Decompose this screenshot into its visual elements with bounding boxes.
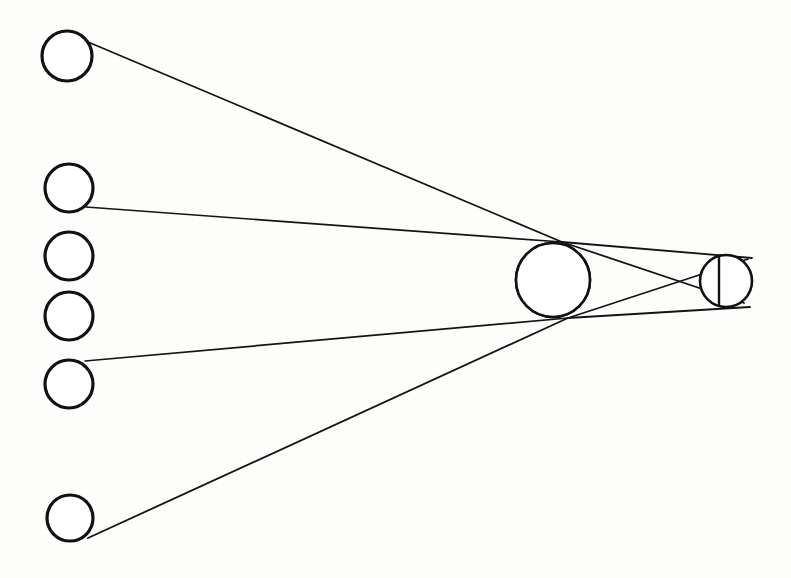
source-circle-5 [45,360,93,408]
source-circles-layer [42,31,93,541]
hatched-sphere-group [516,243,590,317]
ray-from-source-6-to-bottom-node [88,318,568,538]
source-circle-1 [42,31,92,81]
rays-layer [85,42,752,538]
ray-diagram-canvas [0,0,791,578]
hatched-sphere-outline-overlay [516,243,590,317]
source-circle-6 [47,495,93,541]
source-circle-2 [45,164,93,212]
ray-from-source-5-to-bottom-node [85,318,568,361]
small-sphere-outline [700,255,752,307]
source-circle-3 [45,232,93,280]
small-sphere-group [700,255,752,307]
source-circle-4 [45,292,93,340]
figure-root [0,0,791,578]
